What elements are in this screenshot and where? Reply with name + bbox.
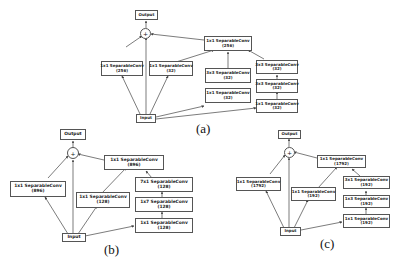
conv-node-b-mid: 1x1 SeparableConv(128) [76,192,130,208]
caption-c: (c) [320,236,334,252]
node-channels: (192) [307,194,319,198]
conv-node-b-left: 1x1 SeparableConv(896) [10,181,66,197]
node-channels: (32) [272,67,281,71]
conv-node-c-col-top: 3x1 SeparableConv(192) [343,176,390,189]
node-channels: (192) [360,202,372,206]
conv-node-c-col-bot: 1x1 SeparableConv(192) [343,214,390,228]
conv-node-c-top: 1x1 SeparableConv(1792) [317,155,366,168]
node-channels: (32) [223,76,232,80]
node-channels: (128) [157,205,170,210]
conv-node-c-left: 1x1 SeparableConv(1792) [236,177,281,191]
node-label: Output [282,132,298,136]
output-node-a: Output [135,10,158,20]
add-node-a: + [140,28,151,39]
conv-node-a-top: 1x1 SeparableConv(256) [204,36,252,51]
node-label: Input [67,235,80,240]
conv-node-b-col-bot: 1x1 SeparableConv(128) [135,218,193,233]
conv-node-a-left: 1x1 SeparableConv(256) [101,61,143,76]
conv-node-a-col3-top: 3x3 SeparableConv(32) [256,60,298,74]
node-channels: (32) [223,96,232,100]
node-channels: (256) [222,44,234,48]
conv-node-a-col2-bot: 1x1 SeparableConv(32) [205,88,251,103]
node-label: Input [140,116,152,120]
output-node-c: Output [278,130,301,139]
add-node-b: + [67,147,79,159]
conv-node-a-col3-bot: 1x1 SeparableConv(32) [256,99,298,113]
node-channels: (128) [157,185,170,190]
caption-b: (b) [104,242,119,258]
node-channels: (32) [272,106,281,110]
node-channels: (128) [157,226,170,231]
conv-node-a-col3-mid: 3x3 SeparableConv(32) [256,79,298,93]
plus-icon: + [70,150,75,157]
node-channels: (192) [360,221,372,225]
output-node-b: Output [60,129,86,140]
conv-node-a-col2-top: 3x3 SeparableConv(32) [205,68,251,83]
node-channels: (896) [127,163,140,168]
conv-node-a-mid: 1x1 SeparableConv(32) [149,61,193,76]
node-channels: (1792) [334,162,349,166]
node-label: Input [285,229,297,233]
node-channels: (1792) [251,184,266,188]
caption-a: (a) [196,121,210,137]
node-channels: (256) [116,69,128,73]
input-node-a: Input [136,114,156,123]
node-channels: (128) [96,200,109,205]
input-node-b: Input [62,233,86,242]
input-node-c: Input [280,227,301,236]
node-channels: (32) [166,69,175,73]
conv-node-b-col-mid: 1x7 SeparableConv(128) [135,197,193,212]
node-label: Output [139,13,155,17]
node-channels: (32) [272,86,281,90]
plus-icon: + [143,30,148,37]
conv-node-b-top: 1x1 SeparableConv(896) [104,155,164,170]
conv-node-c-mid: 1x1 SeparableConv(192) [291,187,336,201]
node-channels: (192) [360,183,372,187]
node-channels: (896) [31,189,44,194]
plus-icon: + [287,149,292,156]
add-node-c: + [284,147,295,158]
node-label: Output [64,132,81,137]
conv-node-b-col-top: 7x1 SeparableConv(128) [135,177,193,192]
conv-node-c-col-mid: 1x3 SeparableConv(192) [343,195,390,208]
